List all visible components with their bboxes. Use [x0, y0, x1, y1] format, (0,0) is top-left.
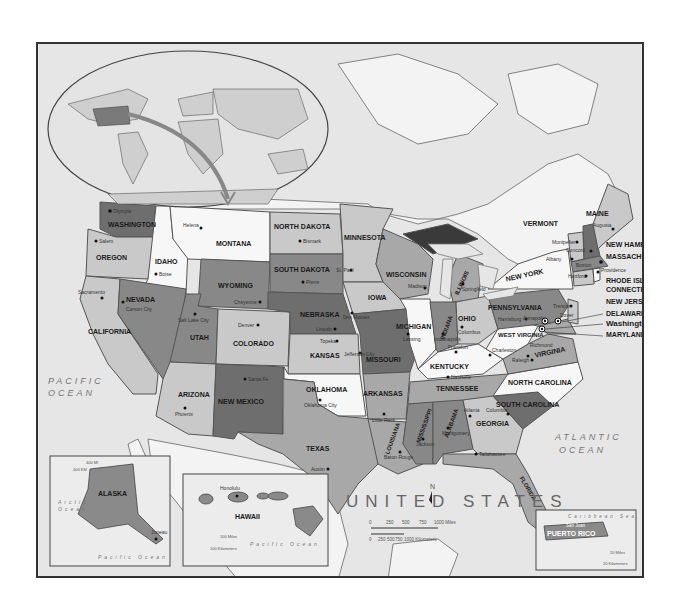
alaska-arctic-label-1: Arctic [57, 499, 89, 505]
capital-concord: Concord [566, 247, 585, 253]
alaska-arctic-label-2: Ocean [58, 506, 88, 512]
capital-carson-city: Carson City [126, 306, 153, 312]
label-georgia: GEORGIA [476, 420, 509, 427]
capital-charleston: Charleston [492, 347, 516, 353]
world-locator [48, 51, 328, 207]
capital-montpelier: Montpelier [552, 239, 576, 245]
capital-salem: Salem [99, 238, 113, 244]
label-arkansas: ARKANSAS [363, 390, 403, 397]
hawaii-pacific-label: Pacific Ocean [250, 541, 320, 547]
label-iowa: IOWA [368, 294, 387, 301]
svg-text:500: 500 [387, 537, 395, 542]
capital-frankfort: Frankfort [448, 344, 469, 350]
label-kentucky: KENTUCKY [430, 363, 469, 370]
capital-bismark: Bismark [303, 238, 322, 244]
label-massachusetts: MASSACHUSETTS [606, 253, 644, 260]
us-map: WASHINGTON OREGON CALIFORNIA IDAHO NEVAD… [38, 44, 644, 578]
label-north-dakota: NORTH DAKOTA [274, 223, 330, 230]
state-montana[interactable] [170, 206, 270, 262]
label-montana: MONTANA [216, 240, 251, 247]
capital-madison: Madison [408, 283, 427, 289]
label-puerto-rico: PUERTO RICO [547, 530, 596, 537]
capital-austin: Austin [311, 466, 325, 472]
capital-olympia: Olympia [113, 208, 132, 214]
capital-phoenix: Phoenix [175, 411, 194, 417]
label-maine: MAINE [586, 210, 609, 217]
capital-baton-rouge: Baton Rouge [384, 454, 413, 460]
capital-topeka: Topeka [320, 338, 336, 344]
label-new-mexico: NEW MEXICO [218, 398, 264, 405]
svg-text:750: 750 [395, 537, 403, 542]
capital-nashville: Nashville [451, 374, 472, 380]
svg-text:750: 750 [419, 520, 427, 525]
capital-annapolis: Annapolis [523, 315, 545, 321]
label-north-carolina: NORTH CAROLINA [508, 379, 572, 386]
label-oregon: OREGON [96, 254, 127, 261]
alaska-pacific-label: Pacific Ocean [98, 554, 168, 560]
label-new-jersey: NEW JERSEY [606, 298, 644, 305]
locator-usa-highlight [93, 106, 130, 126]
capital-st-paul: St. Paul [336, 267, 354, 273]
capital-hartford: Hartford [568, 273, 586, 279]
label-ohio: OHIO [458, 315, 476, 322]
pacific-ocean-label-2: OCEAN [48, 388, 95, 398]
capital-columbia: Columbia [486, 407, 507, 413]
capital-santa-fe: Santa Fe [248, 376, 269, 382]
capital-jefferson-city: Jefferson City [344, 351, 375, 357]
capital-honolulu: Honolulu [220, 485, 240, 491]
capital-jackson: Jackson [416, 441, 435, 447]
alaska-scale-km: 400 KM [73, 467, 87, 472]
label-rhode-island: RHODE ISLAND [606, 277, 644, 284]
state-north-dakota[interactable] [270, 212, 343, 254]
capital-boston: Boston [576, 262, 592, 268]
svg-text:1000 Kilometers: 1000 Kilometers [404, 537, 437, 542]
capital-juneau: Juneau [151, 529, 168, 535]
label-wyoming: WYOMING [218, 282, 254, 289]
pacific-ocean-label-1: PACIFIC [48, 376, 104, 386]
label-new-hampshire: NEW HAMPSHIRE [606, 241, 644, 248]
label-nebraska: NEBRASKA [300, 311, 340, 318]
label-connecticut: CONNECTICUT [606, 286, 644, 293]
capital-tallahassee: Tallahassee [479, 451, 506, 457]
capital-indianapolis: Indianapolis [434, 336, 461, 342]
capital-salt-lake-city: Salt Lake City [178, 317, 209, 323]
capital-raleigh: Raleigh [512, 357, 529, 363]
label-utah: UTAH [190, 334, 209, 341]
label-oklahoma: OKLAHOMA [306, 386, 347, 393]
capital-sacramento: Sacramento [78, 289, 105, 295]
capital-lansing: Springfield [462, 286, 486, 292]
capital-trenton: Trenton [553, 303, 570, 309]
puerto-rico-scale-km: 20 Kilometers [603, 561, 627, 566]
label-kansas: KANSAS [310, 352, 340, 359]
label-wisconsin: WISCONSIN [386, 271, 426, 278]
capital-helena: Helena [183, 222, 199, 228]
alaska-scale-miles: 400 MI [86, 460, 98, 465]
label-arizona: ARIZONA [178, 391, 210, 398]
svg-text:250: 250 [378, 537, 386, 542]
puerto-rico-scale-miles: 20 Miles [610, 550, 625, 555]
hawaii-scale-km: 100 Kilometers [210, 546, 237, 551]
label-washington: WASHINGTON [108, 221, 156, 228]
label-texas: TEXAS [306, 445, 330, 452]
capital-des-moines: Des Moines [343, 314, 370, 320]
capital-lincoln: Lincoln [316, 326, 332, 332]
map-title: UNITED STATES [346, 492, 569, 511]
capital-montgomery: Montgomery [442, 430, 470, 436]
label-illinois: MICHIGAN [396, 323, 431, 330]
capital-san-juan: San Juan [566, 523, 586, 528]
label-california: CALIFORNIA [88, 328, 131, 335]
label-minnesota: MINNESOTA [344, 234, 385, 241]
atlantic-ocean-label-1: ATLANTIC [554, 432, 622, 442]
label-south-dakota: SOUTH DAKOTA [274, 266, 330, 273]
state-rhode-island[interactable] [593, 268, 600, 282]
state-colorado[interactable] [216, 309, 290, 366]
label-hawaii: HAWAII [235, 513, 260, 520]
capital-augusta: Augusta [593, 222, 612, 228]
capital-albany: Albany [546, 256, 562, 262]
capital-providence: Providence [601, 267, 626, 273]
capital-little-rock: Little Rock [372, 417, 396, 423]
capital-oklahoma-city: Oklahoma City [304, 402, 337, 408]
state-south-dakota[interactable] [270, 254, 343, 294]
capital-springfield: Lansing [403, 336, 421, 342]
capital-columbus: Columbus [458, 329, 481, 335]
